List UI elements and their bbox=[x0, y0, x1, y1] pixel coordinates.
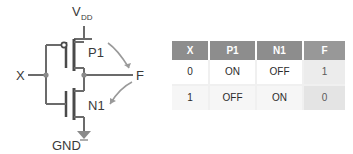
vdd-subscript-label: DD bbox=[81, 13, 93, 22]
output-node-wire bbox=[81, 68, 133, 91]
cell-x: 0 bbox=[172, 60, 209, 85]
cell-f: 0 bbox=[303, 85, 345, 110]
output-label-f: F bbox=[136, 68, 144, 83]
cell-n1: OFF bbox=[256, 60, 303, 85]
nmos-transistor-n1 bbox=[58, 88, 84, 120]
vdd-wire bbox=[74, 26, 92, 39]
table-row: 1 OFF ON 0 bbox=[172, 85, 345, 110]
table-header-p1: P1 bbox=[209, 41, 256, 60]
cell-x: 1 bbox=[172, 85, 209, 110]
table-header: X P1 N1 F bbox=[172, 41, 345, 60]
table-header-x: X bbox=[172, 41, 209, 60]
table-body: 0 ON OFF 1 1 OFF ON 0 bbox=[172, 60, 345, 110]
input-gate-rail bbox=[28, 45, 58, 104]
cell-f: 1 bbox=[303, 60, 345, 85]
table-header-n1: N1 bbox=[256, 41, 303, 60]
vdd-label: V bbox=[72, 4, 81, 19]
pmos-label-p1: P1 bbox=[88, 45, 104, 60]
gnd-label: GND bbox=[52, 138, 81, 153]
cmos-inverter-schematic: V DD GND X F P1 N1 bbox=[0, 0, 170, 154]
truth-table: X P1 N1 F 0 ON OFF 1 1 OFF ON 0 bbox=[172, 41, 345, 110]
cell-p1: OFF bbox=[209, 85, 256, 110]
pmos-to-output-arrow-icon bbox=[108, 43, 131, 68]
table-row: 0 ON OFF 1 bbox=[172, 60, 345, 85]
nmos-to-output-arrow-icon bbox=[110, 82, 132, 104]
input-label-x: X bbox=[16, 68, 25, 83]
pmos-transistor-p1 bbox=[58, 39, 84, 71]
cell-p1: ON bbox=[209, 60, 256, 85]
nmos-label-n1: N1 bbox=[88, 98, 105, 113]
table-header-f: F bbox=[303, 41, 345, 60]
table-header-row: X P1 N1 F bbox=[172, 41, 345, 60]
cell-n1: ON bbox=[256, 85, 303, 110]
cmos-inverter-figure: V DD GND X F P1 N1 X P1 N1 F 0 ON OFF 1 bbox=[0, 0, 353, 154]
